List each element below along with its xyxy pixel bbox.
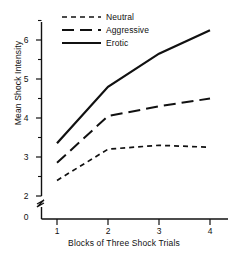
- series-line-neutral: [57, 145, 210, 180]
- y-tick-label-3: 3: [18, 152, 34, 162]
- x-tick-label-3: 3: [151, 226, 167, 236]
- series-line-aggressive: [57, 99, 210, 163]
- x-tick-label-4: 4: [202, 226, 218, 236]
- y-axis-title: Mean Shock Intensity: [13, 13, 23, 153]
- legend-label-erotic: Erotic: [106, 38, 128, 48]
- legend-label-aggressive: Aggressive: [106, 25, 149, 35]
- y-tick-label-0: 0: [18, 212, 34, 222]
- x-tick-label-1: 1: [49, 226, 65, 236]
- legend-label-neutral: Neutral: [106, 12, 134, 22]
- x-tick-label-2: 2: [100, 226, 116, 236]
- y-tick-label-2: 2: [18, 191, 34, 201]
- x-axis-title: Blocks of Three Shock Trials: [0, 238, 248, 248]
- y-axis-break-icon: [37, 200, 44, 207]
- series-line-erotic: [57, 30, 210, 143]
- chart-figure: 6 5 4 3 2 0 1 2 3 4 Mean Shock Intensity…: [0, 0, 248, 256]
